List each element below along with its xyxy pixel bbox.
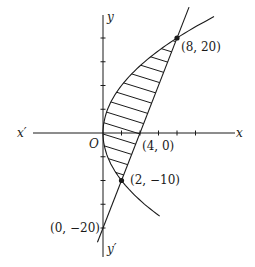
intersection-point-upper — [174, 35, 179, 40]
y-neg-axis-label: y′ — [106, 242, 117, 256]
point-label-2-neg10: (2, −10) — [130, 173, 180, 187]
point-label-4-0: (4, 0) — [142, 139, 174, 153]
x-neg-axis-label: x′ — [17, 126, 27, 140]
x-axis-label: x — [236, 126, 243, 140]
y-axis-label: y — [106, 10, 114, 24]
area-between-curves-diagram: y y′ x x′ O (8, 20) (4, 0) (2, −10) (0, … — [0, 0, 255, 267]
origin-label: O — [89, 137, 99, 151]
intersection-point-lower — [119, 178, 124, 183]
point-label-0-neg20: (0, −20) — [50, 221, 100, 235]
point-label-8-20: (8, 20) — [181, 40, 221, 54]
